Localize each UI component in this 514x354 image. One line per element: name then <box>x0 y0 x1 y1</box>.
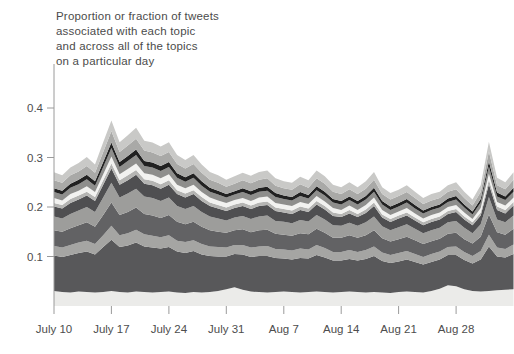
chart-canvas: 0.10.20.30.4July 10July 17July 24July 31… <box>0 0 514 354</box>
stacked-area-chart-figure: Proportion or fraction of tweets associa… <box>0 0 514 354</box>
y-tick-label: 0.4 <box>27 102 44 114</box>
y-tick-label: 0.3 <box>27 152 43 164</box>
x-tick-label: July 24 <box>151 323 188 335</box>
x-tick-label: Aug 21 <box>380 323 416 335</box>
x-tick-label: Aug 7 <box>269 323 299 335</box>
x-tick-label: July 31 <box>208 323 244 335</box>
x-tick-label: July 17 <box>93 323 129 335</box>
x-tick-label: Aug 14 <box>323 323 360 335</box>
x-tick-label: July 10 <box>36 323 72 335</box>
y-tick-label: 0.1 <box>27 251 43 263</box>
x-tick-label: Aug 28 <box>438 323 474 335</box>
y-tick-label: 0.2 <box>27 201 43 213</box>
